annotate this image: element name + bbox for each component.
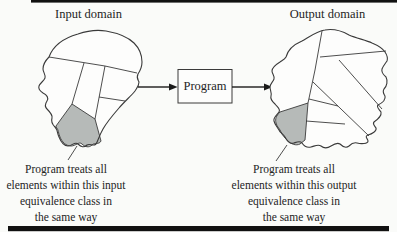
bottom-rule xyxy=(8,226,389,231)
program-box-label: Program xyxy=(178,69,232,103)
input-caption-line-4: the same way xyxy=(0,209,141,225)
equivalence-partitioning-figure: Input domain Output domain Program Progr… xyxy=(0,0,397,232)
input-caption-line-3: equivalence class in xyxy=(0,193,141,209)
output-caption-leader-line xyxy=(276,145,287,161)
output-domain-title: Output domain xyxy=(267,7,388,22)
input-caption-line-2: elements within this input xyxy=(0,177,141,193)
top-rule xyxy=(31,0,397,3)
output-caption-line-2: elements within this output xyxy=(219,177,369,193)
input-caption-line-1: Program treats all xyxy=(0,161,141,177)
output-caption-line-4: the same way xyxy=(219,209,369,225)
output-caption-line-3: equivalence class in xyxy=(219,193,369,209)
input-caption-leader-line xyxy=(68,146,77,160)
input-equivalence-caption: Program treats all elements within this … xyxy=(0,161,141,225)
output-equivalence-caption: Program treats all elements within this … xyxy=(219,161,369,225)
input-to-program-arrowhead-icon xyxy=(169,83,178,90)
output-caption-line-1: Program treats all xyxy=(219,161,369,177)
input-domain-title: Input domain xyxy=(28,7,149,22)
